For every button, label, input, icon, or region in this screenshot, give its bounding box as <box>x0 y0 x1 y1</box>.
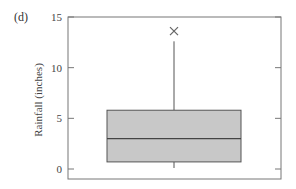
y-tick-label: 0 <box>57 163 63 175</box>
iqr-box <box>107 110 241 162</box>
y-tick-label: 10 <box>51 62 63 74</box>
y-tick-label: 5 <box>57 112 63 124</box>
y-axis-label: Rainfall (inches) <box>32 63 45 137</box>
y-tick-label: 15 <box>51 11 63 23</box>
box-plot: 051015Rainfall (inches) <box>0 0 296 189</box>
